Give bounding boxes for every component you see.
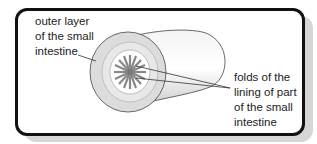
- label-line: intestine: [234, 115, 314, 130]
- label-line: folds of the: [234, 70, 314, 85]
- label-line: of the small: [234, 100, 314, 115]
- label-line: of the small: [35, 29, 115, 44]
- label-line: lining of part: [234, 85, 314, 100]
- label-line: intestine: [35, 44, 115, 59]
- label-lining-folds: folds of the lining of part of the small…: [234, 70, 314, 130]
- label-line: outer layer: [35, 14, 115, 29]
- label-outer-layer: outer layer of the small intestine: [35, 14, 115, 59]
